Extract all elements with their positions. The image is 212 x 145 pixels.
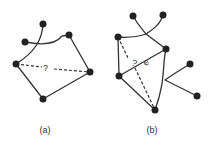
edge (69, 35, 90, 72)
edge (118, 37, 119, 76)
node (116, 73, 123, 80)
node (130, 13, 137, 20)
node (194, 93, 201, 100)
edge (155, 49, 166, 110)
node (66, 32, 73, 39)
dashed-edge (135, 68, 155, 110)
node (13, 61, 20, 68)
caption-a: (a) (40, 125, 51, 135)
edge (43, 72, 90, 99)
dashed-edge (54, 69, 90, 72)
edge-label-question: ? (130, 57, 138, 68)
dashed-edge (16, 64, 42, 67)
node (187, 61, 194, 68)
node (152, 107, 159, 114)
node (40, 21, 47, 28)
node (87, 69, 94, 76)
diagram-a: ? (a) (13, 21, 94, 136)
node (160, 12, 167, 19)
node (22, 39, 29, 46)
edge (165, 64, 197, 96)
edge-label-question: ? (43, 63, 48, 73)
diagram-canvas: ? (a) ? e (b) (0, 0, 212, 145)
edge (119, 76, 155, 110)
node (115, 34, 122, 41)
edge (146, 15, 163, 34)
edge (16, 64, 43, 99)
node (40, 96, 47, 103)
node (163, 46, 170, 53)
edge (25, 36, 62, 44)
edge (146, 34, 166, 49)
caption-b: (b) (147, 125, 158, 135)
diagram-b: ? e (b) (115, 12, 201, 136)
edge (118, 34, 146, 37)
